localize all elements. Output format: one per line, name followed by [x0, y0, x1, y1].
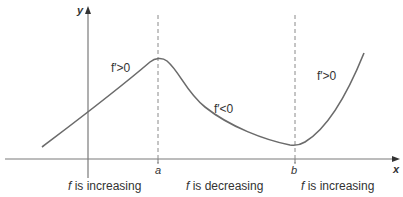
region-label-text: is increasing — [71, 179, 141, 193]
region-label-decreasing: f is decreasing — [186, 179, 263, 193]
region-label-text: is decreasing — [189, 179, 263, 193]
x-axis-label: x — [392, 163, 400, 175]
y-axis-arrow-icon — [85, 6, 91, 14]
point-a-label: a — [155, 164, 161, 176]
derivative-label-left: f′>0 — [111, 61, 131, 75]
function-curve — [42, 53, 364, 147]
point-b-label: b — [291, 164, 297, 176]
function-monotonicity-diagram: y x a b f′>0 f′<0 f′>0 f is increasing f… — [0, 0, 403, 197]
region-label-increasing-left: f is increasing — [68, 179, 141, 193]
derivative-label-right: f′>0 — [317, 69, 337, 83]
derivative-label-middle: f′<0 — [214, 102, 234, 116]
region-label-text: is increasing — [304, 179, 374, 193]
x-axis-arrow-icon — [392, 156, 400, 162]
y-axis-label: y — [76, 4, 84, 16]
region-label-increasing-right: f is increasing — [301, 179, 374, 193]
